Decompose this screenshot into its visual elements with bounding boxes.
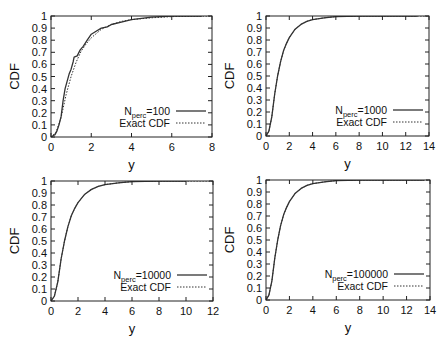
x-tick-label: 8 [356, 140, 362, 152]
legend-label-exact: Exact CDF [337, 280, 388, 292]
x-tick-label: 2 [88, 141, 94, 153]
y-tick-label: 0.8 [247, 34, 262, 46]
y-tick-label: 0.9 [247, 22, 262, 34]
y-tick-label: 1 [41, 10, 47, 22]
y-tick-label: 0.6 [247, 58, 262, 70]
x-tick-label: 10 [180, 305, 192, 317]
cdf-plot-2: 00.10.20.30.40.50.60.70.80.9102468101214… [222, 10, 435, 171]
y-tick-label: 0.3 [32, 95, 47, 107]
x-tick-label: 0 [263, 140, 269, 152]
y-tick-label: 0.3 [247, 94, 262, 106]
y-tick-label: 0.7 [32, 211, 47, 223]
y-tick-label: 0.7 [32, 46, 47, 58]
y-tick-label: 0.7 [247, 210, 262, 222]
y-tick-label: 0.2 [247, 106, 262, 118]
y-tick-label: 0.3 [32, 259, 47, 271]
y-tick-label: 1 [256, 174, 262, 186]
x-tick-label: 0 [263, 304, 269, 316]
y-tick-label: 0.9 [247, 186, 262, 198]
x-tick-label: 4 [128, 141, 134, 153]
y-tick-label: 1 [256, 10, 262, 22]
y-axis-title: CDF [7, 228, 22, 255]
x-tick-label: 12 [400, 304, 412, 316]
y-tick-label: 0.5 [247, 234, 262, 246]
y-tick-label: 0.1 [247, 118, 262, 130]
cdf-plot-1: 00.10.20.30.40.50.60.70.80.9102468yCDFNp… [7, 10, 215, 172]
y-tick-label: 0.2 [32, 271, 47, 283]
legend-label-exact: Exact CDF [119, 117, 170, 129]
y-tick-label: 0.6 [247, 222, 262, 234]
legend-label-exact: Exact CDF [336, 116, 387, 128]
x-tick-label: 4 [102, 305, 108, 317]
x-tick-label: 8 [357, 304, 363, 316]
x-tick-label: 0 [48, 305, 54, 317]
y-tick-label: 0.1 [32, 119, 47, 131]
cdf-plot-4: 00.10.20.30.40.50.60.70.80.9102468101214… [222, 174, 436, 335]
y-tick-label: 0.4 [32, 247, 47, 259]
x-tick-label: 2 [286, 304, 292, 316]
x-tick-label: 2 [75, 305, 81, 317]
y-tick-label: 0 [256, 130, 262, 142]
y-tick-label: 0.2 [32, 107, 47, 119]
x-tick-label: 6 [333, 140, 339, 152]
y-tick-label: 0.5 [247, 70, 262, 82]
y-tick-label: 0.9 [32, 22, 47, 34]
x-tick-label: 8 [156, 305, 162, 317]
y-tick-label: 0.6 [32, 223, 47, 235]
legend-label-exact: Exact CDF [120, 281, 171, 293]
y-tick-label: 0.8 [247, 198, 262, 210]
y-tick-label: 0.5 [32, 71, 47, 83]
x-axis-title: y [344, 156, 351, 171]
x-tick-label: 12 [207, 305, 219, 317]
y-tick-label: 0 [41, 131, 47, 143]
y-tick-label: 1 [41, 175, 47, 187]
figure-2x2-cdf-plots: 00.10.20.30.40.50.60.70.80.9102468yCDFNp… [0, 0, 448, 343]
y-axis-title: CDF [222, 63, 237, 90]
x-tick-label: 10 [376, 140, 388, 152]
y-tick-label: 0.9 [32, 187, 47, 199]
cdf-plot-3: 00.10.20.30.40.50.60.70.80.91024681012yC… [7, 175, 219, 336]
y-tick-label: 0.3 [247, 258, 262, 270]
x-tick-label: 0 [48, 141, 54, 153]
x-tick-label: 4 [310, 140, 316, 152]
x-axis-title: y [345, 320, 352, 335]
y-tick-label: 0 [41, 295, 47, 307]
y-tick-label: 0.2 [247, 270, 262, 282]
legend: Nperc=100Exact CDF [119, 105, 206, 129]
y-tick-label: 0.5 [32, 235, 47, 247]
x-tick-label: 14 [424, 304, 436, 316]
y-tick-label: 0.8 [32, 199, 47, 211]
x-tick-label: 14 [423, 140, 435, 152]
legend: Nperc=100000Exact CDF [325, 268, 424, 292]
x-tick-label: 8 [209, 141, 215, 153]
x-tick-label: 12 [400, 140, 412, 152]
y-tick-label: 0.1 [247, 282, 262, 294]
x-axis-title: y [128, 157, 135, 172]
y-tick-label: 0.4 [32, 83, 47, 95]
x-tick-label: 2 [286, 140, 292, 152]
legend: Nperc=1000Exact CDF [335, 104, 423, 128]
x-tick-label: 4 [310, 304, 316, 316]
y-axis-title: CDF [222, 227, 237, 254]
y-tick-label: 0.6 [32, 58, 47, 70]
y-tick-label: 0.8 [32, 34, 47, 46]
x-tick-label: 10 [377, 304, 389, 316]
x-axis-title: y [129, 321, 136, 336]
y-tick-label: 0 [256, 294, 262, 306]
y-tick-label: 0.4 [247, 246, 262, 258]
x-tick-label: 6 [169, 141, 175, 153]
x-tick-label: 6 [129, 305, 135, 317]
y-tick-label: 0.4 [247, 82, 262, 94]
x-tick-label: 6 [333, 304, 339, 316]
y-axis-title: CDF [7, 63, 22, 90]
y-tick-label: 0.1 [32, 283, 47, 295]
y-tick-label: 0.7 [247, 46, 262, 58]
legend: Nperc=10000Exact CDF [113, 269, 207, 293]
